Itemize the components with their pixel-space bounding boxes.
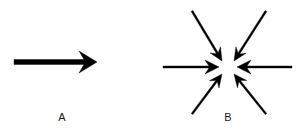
figure-root: A B: [0, 0, 302, 133]
panel-label-a: A: [42, 112, 82, 123]
panel-label-b: B: [208, 112, 248, 123]
